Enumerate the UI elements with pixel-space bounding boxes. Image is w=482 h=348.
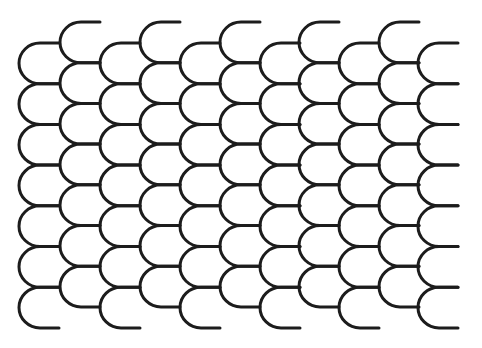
background bbox=[0, 0, 482, 348]
fish-scale-pattern bbox=[0, 0, 482, 348]
